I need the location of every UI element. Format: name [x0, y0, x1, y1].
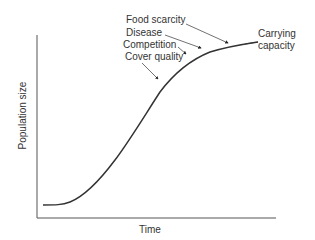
- label-competition: Competition: [123, 39, 176, 50]
- cover-quality-arrow: [142, 63, 158, 79]
- food-scarcity-arrow: [186, 24, 228, 43]
- label-capacity: capacity: [258, 40, 295, 51]
- x-axis-label: Time: [139, 224, 161, 235]
- label-cover-quality: Cover quality: [125, 51, 183, 62]
- y-axis-label: Population size: [17, 81, 28, 151]
- label-carrying: Carrying: [258, 28, 296, 39]
- label-food-scarcity: Food scarcity: [126, 14, 185, 25]
- label-disease: Disease: [126, 27, 162, 38]
- growth-curve: [43, 42, 258, 205]
